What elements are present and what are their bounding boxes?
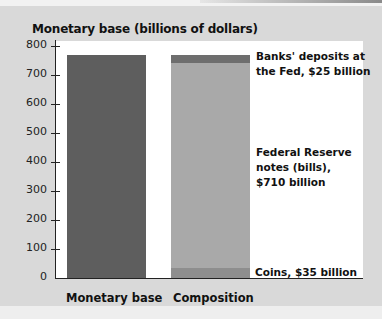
y-tick-label-200: 200 — [7, 212, 47, 225]
top-frame-shadow — [200, 0, 382, 3]
annotation-federal-reserve-notes: Federal Reserve notes (bills), $710 bill… — [256, 145, 352, 190]
y-tick-label-800: 800 — [7, 38, 47, 51]
annotation-line: the Fed, $25 billion — [256, 64, 370, 79]
y-tick-label-600: 600 — [7, 96, 47, 109]
annotation-banks-deposits: Banks' deposits at the Fed, $25 billion — [256, 49, 370, 79]
y-tick-label-400: 400 — [7, 154, 47, 167]
bar-monetary-base — [67, 55, 146, 278]
annotation-coins: Coins, $35 billion — [255, 265, 357, 280]
y-tick-label-0: 0 — [7, 270, 47, 283]
segment-federal-reserve-notes — [171, 63, 250, 268]
segment-coins — [171, 268, 250, 278]
x-label-monetary-base: Monetary base — [66, 291, 162, 305]
y-tick-label-300: 300 — [7, 183, 47, 196]
segment-banks-deposits — [171, 55, 250, 63]
y-tick-label-100: 100 — [7, 241, 47, 254]
y-tick-label-700: 700 — [7, 67, 47, 80]
y-axis — [55, 40, 56, 279]
annotation-line: Banks' deposits at — [256, 49, 370, 64]
y-tick-label-500: 500 — [7, 125, 47, 138]
bottom-frame-strip — [0, 306, 382, 319]
bar-composition — [171, 55, 250, 278]
annotation-line: Federal Reserve — [256, 145, 352, 160]
annotation-line: notes (bills), — [256, 160, 352, 175]
chart-title: Monetary base (billions of dollars) — [32, 22, 258, 36]
x-label-composition: Composition — [173, 291, 254, 305]
annotation-line: $710 billion — [256, 175, 352, 190]
